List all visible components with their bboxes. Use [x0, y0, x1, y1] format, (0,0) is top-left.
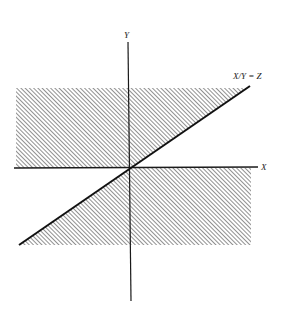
lower-right-shaded-region [19, 168, 251, 245]
x-axis [14, 167, 258, 168]
diagram: X Y X/Y = Z [0, 0, 282, 311]
x-axis-label: X [260, 162, 267, 172]
upper-left-shaded-region [16, 88, 247, 168]
ratio-line-label: X/Y = Z [232, 71, 263, 81]
y-axis-label: Y [124, 30, 130, 40]
